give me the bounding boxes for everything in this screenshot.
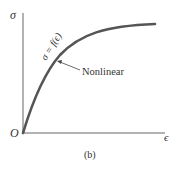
annotation-arrow <box>60 62 80 70</box>
nonlinear-curve <box>23 24 155 133</box>
arrow-head-icon <box>57 60 62 64</box>
x-axis-label: ϵ <box>164 131 169 143</box>
figure-caption: (b) <box>84 149 96 161</box>
y-axis-label: σ <box>10 8 17 22</box>
stress-strain-figure: σ O ϵ σ = f(ϵ) Nonlinear (b) <box>0 0 183 176</box>
curve-equation-label: σ = f(ϵ) <box>38 30 65 62</box>
origin-label: O <box>10 126 19 140</box>
stress-strain-diagram: σ O ϵ σ = f(ϵ) Nonlinear (b) <box>0 0 183 176</box>
nonlinear-annotation: Nonlinear <box>82 66 124 77</box>
